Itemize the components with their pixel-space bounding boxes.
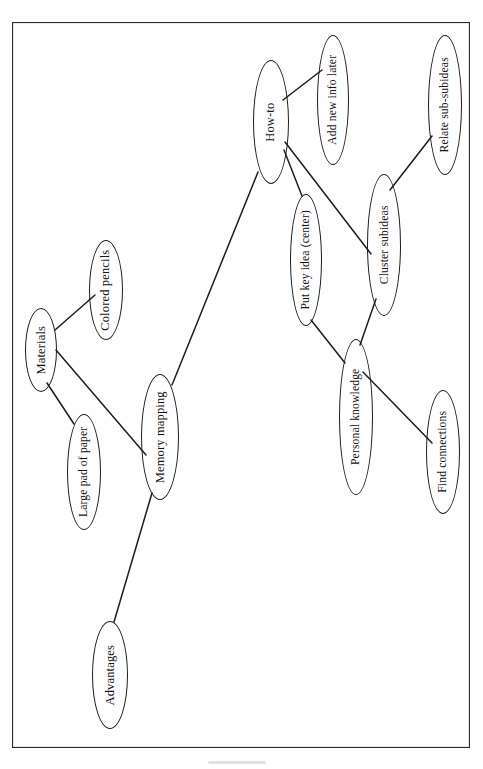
node-memory-mapping[interactable]: Memory mapping bbox=[141, 374, 179, 500]
edge-personal-knowledge-find-connections bbox=[363, 372, 432, 443]
node-label-personal-knowledge: Personal knowledge bbox=[350, 369, 362, 465]
node-personal-knowledge[interactable]: Personal knowledge bbox=[339, 339, 373, 495]
edge-cluster-personal-knowledge bbox=[360, 299, 376, 345]
node-colored-pencils[interactable]: Colored pencils bbox=[89, 240, 123, 340]
scan-artifact bbox=[208, 761, 266, 764]
edge-memory-mapping-advantages bbox=[114, 493, 152, 622]
edge-cluster-relate-sub-subideas bbox=[390, 136, 432, 190]
node-materials[interactable]: Materials bbox=[25, 308, 57, 392]
node-label-memory-mapping: Memory mapping bbox=[154, 391, 167, 483]
edge-materials-large-pad bbox=[47, 383, 74, 424]
node-cluster-subideas[interactable]: Cluster subideas bbox=[367, 174, 401, 316]
node-advantages[interactable]: Advantages bbox=[92, 621, 128, 729]
scanned-page: Memory mappingMaterialsColored pencilsLa… bbox=[0, 0, 483, 769]
node-label-how-to: How-to bbox=[265, 102, 278, 141]
node-large-pad-of-paper[interactable]: Large pad of paper bbox=[67, 414, 101, 530]
edge-how-to-put-key-idea bbox=[284, 150, 302, 196]
node-find-connections[interactable]: Find connections bbox=[426, 390, 460, 514]
node-label-relate-sub-subideas: Relate sub-subideas bbox=[439, 57, 451, 152]
edge-memory-mapping-how-to bbox=[172, 172, 258, 385]
node-label-advantages: Advantages bbox=[104, 645, 117, 706]
node-label-put-key-idea-center: Put key idea (center) bbox=[300, 210, 312, 309]
node-label-cluster-subideas: Cluster subideas bbox=[378, 206, 390, 285]
node-label-find-connections: Find connections bbox=[437, 411, 449, 493]
node-label-materials: Materials bbox=[35, 326, 48, 375]
concept-map-canvas bbox=[0, 0, 483, 769]
node-label-add-new-info-later: Add new info later bbox=[327, 55, 339, 145]
node-put-key-idea-center[interactable]: Put key idea (center) bbox=[290, 194, 322, 326]
edge-put-key-idea-personal-knowledge bbox=[311, 320, 345, 363]
edge-group bbox=[47, 70, 432, 622]
node-relate-sub-subideas[interactable]: Relate sub-subideas bbox=[428, 35, 462, 175]
node-label-colored-pencils: Colored pencils bbox=[100, 249, 113, 330]
node-how-to[interactable]: How-to bbox=[253, 60, 289, 184]
node-label-large-pad-of-paper: Large pad of paper bbox=[78, 427, 90, 517]
node-add-new-info-later[interactable]: Add new info later bbox=[317, 35, 349, 165]
